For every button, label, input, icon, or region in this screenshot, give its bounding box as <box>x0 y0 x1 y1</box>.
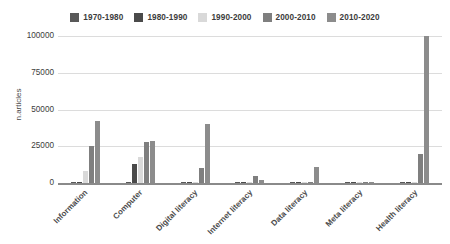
bar-chart: 1970-19801980-19901990-20002000-20102010… <box>0 0 450 244</box>
plot-area: n.articles 0250005000075000100000 Inform… <box>0 0 450 244</box>
x-axis-tick-label: Meta literacy <box>323 188 364 229</box>
x-axis-tick-label: Data literacy <box>269 188 309 228</box>
x-axis-tick-labels: InformationComputerDigital literacyInter… <box>0 0 450 244</box>
x-axis-tick-label: Health literacy <box>374 188 419 233</box>
x-axis-tick-label: Digital literacy <box>154 188 199 233</box>
x-axis-tick-label: Computer <box>112 188 145 221</box>
x-axis-tick-label: Information <box>52 188 89 225</box>
x-axis-tick-label: Internet literacy <box>206 188 254 236</box>
